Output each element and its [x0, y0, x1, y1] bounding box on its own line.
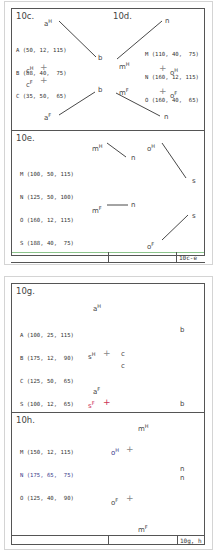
label-n-top: n [131, 154, 135, 162]
panel-title-10g: 10g. [16, 286, 35, 296]
plus-marker-o-h: + [126, 445, 134, 454]
label-n-bottom: n [180, 474, 184, 482]
coordinate-a: A (50, 12, 115) [16, 47, 67, 55]
panel-title-10d: 10d. [113, 11, 132, 21]
label-m-f: mF [119, 86, 129, 97]
label-s-top: s [192, 177, 196, 185]
coordinate-c: C (35, 50, 65) [16, 93, 67, 101]
label-m-f: mF [92, 204, 102, 215]
label-b-top: b [180, 326, 184, 334]
panel-title-10e: 10e. [16, 133, 35, 143]
label-b-bottom: b [180, 400, 184, 408]
coordinate-n: N (125, 50, 100) [20, 194, 74, 202]
label-a-f: aF [44, 111, 51, 122]
label-m-h: mH [119, 60, 130, 71]
label-b-top: b [98, 54, 102, 62]
coordinate-b: B (175, 12, 90) [20, 355, 74, 363]
label-o-h: oH [170, 66, 178, 77]
label-m-h: mH [92, 142, 103, 153]
label-o-f: oF [111, 496, 118, 507]
label-b-bottom: b [98, 86, 102, 94]
label-c-h: cH [26, 64, 34, 75]
label-a-h: aH [44, 17, 52, 28]
label-s-h: sH [88, 350, 95, 361]
label-n-top: n [180, 465, 184, 473]
label-o-f: oF [147, 240, 154, 251]
label-n-bottom: n [131, 201, 135, 209]
coordinate-o: O (160, 12, 115) [20, 217, 74, 225]
plus-marker-s-f: + [103, 398, 111, 407]
panel-title-10h: 10h. [16, 415, 35, 425]
coordinate-a: A (100, 25, 115) [20, 332, 74, 340]
label-m-h: mH [138, 422, 149, 433]
label-a-h: aH [93, 302, 101, 313]
label-s-bottom: s [192, 212, 196, 220]
label-c-top: c [121, 350, 125, 358]
plus-marker-s-h: + [103, 349, 111, 358]
coordinate-m: M (100, 50, 115) [20, 171, 74, 179]
coordinates-list-10h: M (150, 12, 115) N (175, 65, 75) O (125,… [20, 434, 74, 510]
label-c-f: cF [26, 78, 33, 89]
plus-marker-c-h: + [40, 63, 48, 72]
coordinate-s: S (100, 12, 65) [20, 401, 74, 409]
coordinate-s: S (188, 40, 75) [20, 240, 74, 248]
coordinate-n: N (175, 65, 75) [20, 472, 74, 480]
coordinates-list-10e: M (100, 50, 115) N (125, 50, 100) O (160… [20, 156, 74, 255]
footer-divider [108, 535, 109, 545]
label-o-h: oH [147, 142, 155, 153]
plus-marker-o-f: + [126, 494, 134, 503]
coordinate-c: C (125, 50, 65) [20, 378, 74, 386]
coordinate-o: O (125, 40, 90) [20, 495, 74, 503]
label-o-h: oH [111, 446, 119, 457]
label-n-top: n [165, 17, 169, 25]
panel-title-10c: 10c. [16, 11, 34, 21]
footer-divider [177, 535, 178, 545]
coordinate-m: M (150, 12, 115) [20, 449, 74, 457]
label-c-bottom: c [121, 362, 125, 370]
label-n-bottom: n [164, 113, 168, 121]
coordinate-m: M (110, 40, 75) [145, 51, 199, 59]
label-s-f: sF [88, 399, 95, 410]
plus-marker-o-h: + [159, 64, 167, 73]
label-a-f: aF [93, 385, 100, 396]
coordinates-list-10g: A (100, 25, 115) B (175, 12, 90) C (125,… [20, 317, 74, 416]
label-m-f: mF [138, 523, 148, 534]
plus-marker-o-f: + [159, 87, 167, 96]
figure-footer-label: 10g, h [180, 537, 202, 544]
plus-marker-c-f: + [40, 76, 48, 85]
label-o-f: oF [170, 89, 177, 100]
